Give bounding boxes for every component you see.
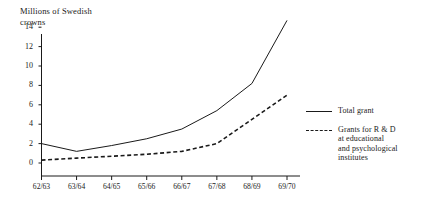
x-tick-label: 69/70 xyxy=(267,182,307,191)
x-tick-label: 65/66 xyxy=(127,182,167,191)
legend-label-rd-grants: Grants for R & D at educational and psyc… xyxy=(338,125,436,163)
x-tick-label: 63/64 xyxy=(57,182,97,191)
y-tick-label: 6 xyxy=(17,101,33,109)
y-tick-label: 10 xyxy=(17,62,33,70)
x-axis-ticks xyxy=(42,176,288,180)
legend-swatch-solid-line-icon xyxy=(306,111,332,112)
x-tick-label: 64/65 xyxy=(92,182,132,191)
x-tick-label: 62/63 xyxy=(22,182,62,191)
data-series-group xyxy=(42,20,288,160)
y-tick-label: 0 xyxy=(17,159,33,167)
y-tick-label: 8 xyxy=(17,81,33,89)
legend-label-total-grant: Total grant xyxy=(338,106,436,116)
y-tick-label: 12 xyxy=(17,43,33,51)
series-line-total-grant xyxy=(42,20,288,151)
series-line-rd-grants xyxy=(42,95,288,160)
x-tick-label: 66/67 xyxy=(162,182,202,191)
y-tick-label: 2 xyxy=(17,140,33,148)
y-tick-label: 4 xyxy=(17,120,33,128)
x-tick-label: 68/69 xyxy=(232,182,272,191)
axes xyxy=(39,27,301,180)
chart-legend: Total grant Grants for R & D at educatio… xyxy=(306,106,436,172)
legend-swatch-dashed-line-icon xyxy=(306,130,332,131)
legend-item-total-grant: Total grant xyxy=(306,106,436,116)
x-tick-label: 67/68 xyxy=(197,182,237,191)
line-chart: Millions of Swedish crowns 14121086420 6… xyxy=(0,0,438,210)
legend-item-rd-grants: Grants for R & D at educational and psyc… xyxy=(306,125,436,163)
y-tick-label: 14 xyxy=(17,23,33,31)
plot-area xyxy=(0,0,438,210)
